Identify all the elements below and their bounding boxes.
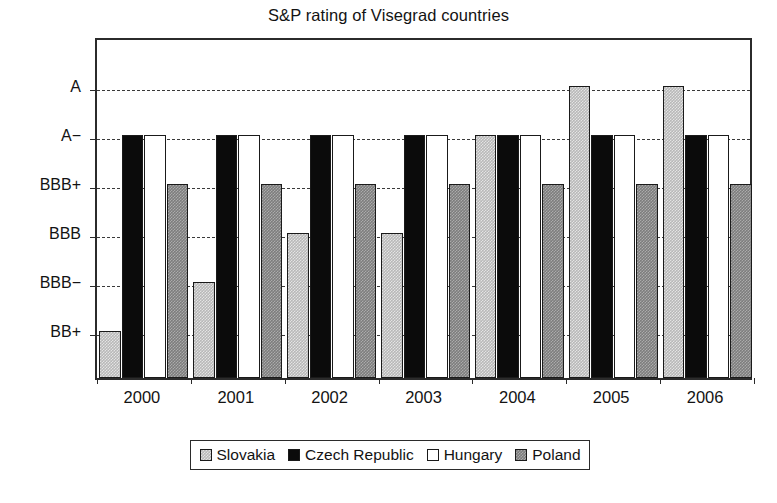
x-tick-mark [191, 378, 192, 384]
x-tick-mark [566, 378, 567, 384]
x-tick-mark [379, 378, 380, 384]
bar-slovakia-2005 [569, 86, 591, 378]
y-axis-tick-label: BBB− [0, 274, 81, 292]
legend-label: Slovakia [217, 447, 276, 463]
bar-czech-republic-2004 [497, 135, 519, 378]
legend-item-poland[interactable]: Poland [515, 447, 580, 463]
x-axis-tick-label-2004: 2004 [470, 388, 564, 407]
bar-poland-2000 [167, 184, 189, 378]
x-tick-mark [660, 378, 661, 384]
bar-poland-2004 [542, 184, 564, 378]
bar-czech-republic-2005 [591, 135, 613, 378]
y-tick-mark [90, 286, 97, 287]
x-axis-tick-label-2003: 2003 [377, 388, 471, 407]
y-axis-tick-label: A− [0, 127, 81, 145]
x-tick-mark [285, 378, 286, 384]
chart-title: S&P rating of Visegrad countries [0, 6, 777, 25]
legend-item-czech-republic[interactable]: Czech Republic [288, 447, 414, 463]
legend-swatch-icon [200, 449, 212, 461]
bar-slovakia-2004 [475, 135, 497, 378]
x-tick-mark [472, 378, 473, 384]
bar-hungary-2006 [708, 135, 730, 378]
legend-item-slovakia[interactable]: Slovakia [200, 447, 276, 463]
bar-czech-republic-2001 [216, 135, 238, 378]
x-tick-mark [97, 378, 98, 384]
legend-label: Hungary [444, 447, 503, 463]
bar-hungary-2002 [332, 135, 354, 378]
y-tick-mark [90, 139, 97, 140]
bar-hungary-2005 [614, 135, 636, 378]
x-axis-tick-label-2002: 2002 [283, 388, 377, 407]
x-axis-tick-label-2000: 2000 [95, 388, 189, 407]
y-axis-tick-label: BBB [0, 225, 81, 243]
bar-poland-2003 [449, 184, 471, 378]
y-axis-tick-label: A [0, 78, 81, 96]
bar-hungary-2000 [144, 135, 166, 378]
y-axis-tick-label: BBB+ [0, 176, 81, 194]
bar-poland-2002 [355, 184, 377, 378]
legend-swatch-icon [288, 449, 300, 461]
gridline-A [97, 90, 750, 91]
bar-slovakia-2001 [193, 282, 215, 378]
legend-label: Czech Republic [305, 447, 414, 463]
bar-slovakia-2000 [99, 331, 121, 378]
bar-hungary-2003 [426, 135, 448, 378]
chart-legend: SlovakiaCzech RepublicHungaryPoland [190, 440, 590, 470]
x-axis-tick-label-2006: 2006 [658, 388, 752, 407]
legend-item-hungary[interactable]: Hungary [427, 447, 503, 463]
y-axis-tick-label: BB+ [0, 323, 81, 341]
x-axis-tick-label-2001: 2001 [189, 388, 283, 407]
bar-poland-2001 [261, 184, 283, 378]
x-axis-tick-label-2005: 2005 [564, 388, 658, 407]
bar-hungary-2004 [520, 135, 542, 378]
y-tick-mark [90, 188, 97, 189]
bar-slovakia-2002 [287, 233, 309, 378]
legend-label: Poland [532, 447, 580, 463]
bar-poland-2006 [730, 184, 752, 378]
bar-poland-2005 [636, 184, 658, 378]
y-tick-mark [90, 90, 97, 91]
bar-czech-republic-2002 [310, 135, 332, 378]
x-tick-mark [754, 378, 755, 384]
y-tick-mark [90, 237, 97, 238]
bar-czech-republic-2003 [404, 135, 426, 378]
bar-hungary-2001 [238, 135, 260, 378]
legend-swatch-icon [427, 449, 439, 461]
chart-figure: S&P rating of Visegrad countries BB+BBB−… [0, 0, 777, 503]
plot-area [95, 38, 752, 380]
bar-czech-republic-2006 [685, 135, 707, 378]
legend-swatch-icon [515, 449, 527, 461]
y-tick-mark [90, 335, 97, 336]
bar-czech-republic-2000 [122, 135, 144, 378]
bar-slovakia-2006 [663, 86, 685, 378]
bar-slovakia-2003 [381, 233, 403, 378]
